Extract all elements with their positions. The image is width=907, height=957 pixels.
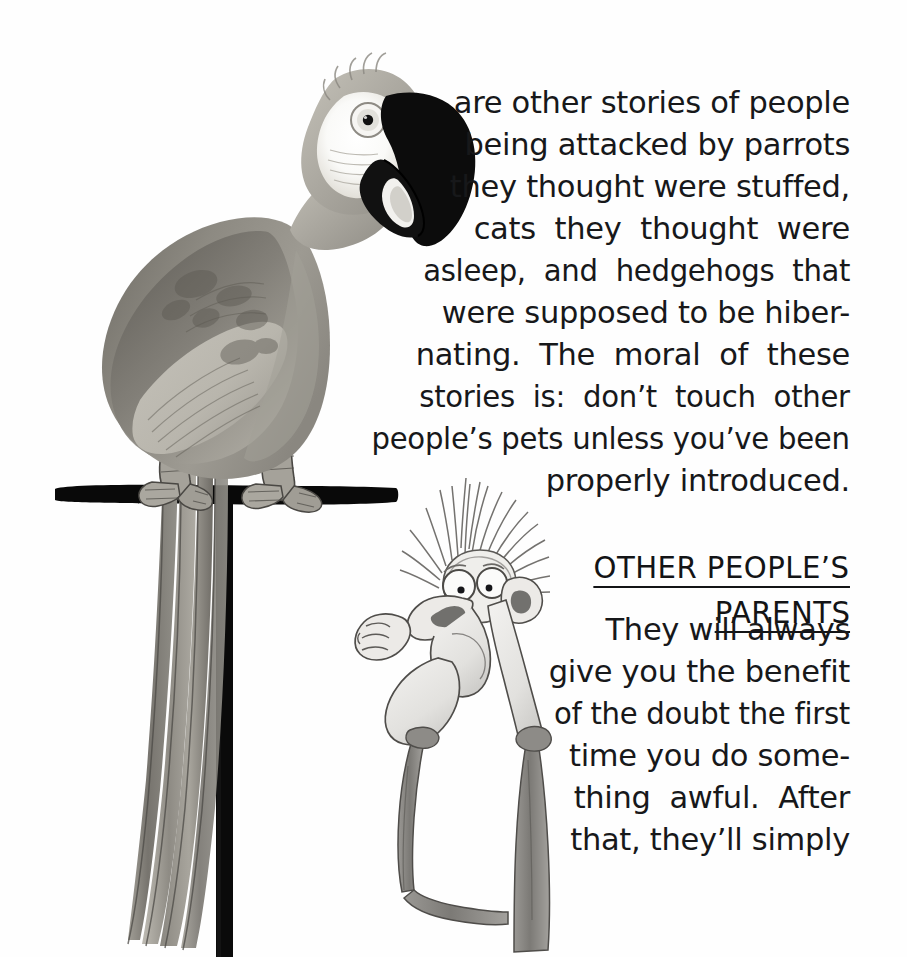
body-line-7: nating. The moral of these — [416, 340, 850, 371]
body-line-2: being attacked by parrots — [465, 130, 851, 161]
body-line-8: stories is: don’t touch other — [419, 382, 850, 413]
body-line-10: properly introduced. — [546, 466, 850, 497]
body2-line-6: that, they’ll simply — [570, 825, 850, 856]
body2-line-2: give you the benefit — [549, 657, 850, 688]
body2-line-4: time you do some- — [569, 741, 850, 772]
parrot-tail — [128, 470, 228, 950]
body-line-6: were supposed to be hiber- — [442, 298, 850, 329]
body2-line-3: of the doubt the first — [554, 699, 850, 730]
body2-line-5: thing awful. After — [574, 783, 850, 814]
body-line-1: are other stories of people — [454, 88, 850, 119]
body-line-3: they thought were stuffed, — [450, 172, 850, 203]
cartoon-man — [355, 478, 551, 952]
body2-line-1: They will always — [606, 615, 850, 646]
man-legs — [398, 740, 550, 952]
body-line-5: asleep, and hedgehogs that — [423, 256, 850, 287]
body-line-9: people’s pets unless you’ve been — [372, 424, 850, 455]
body-line-4: cats they thought were — [474, 214, 850, 245]
parrot-body — [102, 217, 330, 479]
book-page: are other stories of people being attack… — [0, 0, 907, 957]
